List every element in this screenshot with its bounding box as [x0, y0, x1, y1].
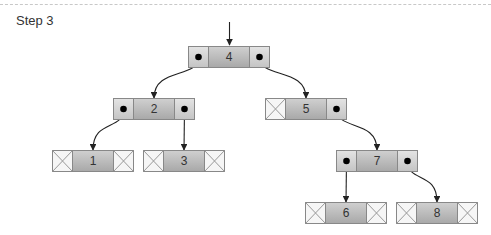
tree-node-7: 7 — [337, 151, 418, 172]
pointer-cell-left — [114, 99, 134, 120]
node-value: 1 — [90, 154, 97, 168]
null-pointer-cell-right — [114, 151, 134, 172]
null-pointer-cell-left — [397, 203, 417, 224]
null-pointer-cell-left — [306, 203, 326, 224]
null-pointer-cell-left — [53, 151, 73, 172]
node-value: 2 — [151, 102, 158, 116]
pointer-dot-icon — [404, 158, 411, 165]
nodes-layer: 42513768 — [53, 47, 478, 224]
tree-node-3: 3 — [144, 151, 225, 172]
pointer-dot-icon — [195, 54, 202, 61]
tree-node-1: 1 — [53, 151, 134, 172]
tree-node-2: 2 — [114, 99, 195, 120]
null-pointer-cell-left — [266, 99, 286, 120]
pointer-cell-left — [189, 47, 209, 68]
pointer-dot-icon — [343, 158, 350, 165]
null-pointer-cell-right — [367, 203, 387, 224]
null-pointer-cell-left — [144, 151, 164, 172]
pointer-dot-icon — [120, 106, 127, 113]
tree-node-4: 4 — [189, 47, 270, 68]
node-value: 4 — [226, 50, 233, 64]
node-value: 8 — [434, 206, 441, 220]
pointer-cell-right — [398, 151, 418, 172]
tree-node-5: 5 — [266, 99, 347, 120]
null-pointer-cell-right — [458, 203, 478, 224]
node-value: 6 — [343, 206, 350, 220]
tree-node-6: 6 — [306, 203, 387, 224]
tree-node-8: 8 — [397, 203, 478, 224]
node-value: 5 — [303, 102, 310, 116]
pointer-cell-right — [327, 99, 347, 120]
pointer-dot-icon — [333, 106, 340, 113]
binary-tree-diagram: 42513768 — [0, 0, 491, 235]
pointer-cell-left — [337, 151, 357, 172]
pointer-dot-icon — [256, 54, 263, 61]
node-value: 3 — [181, 154, 188, 168]
pointer-dot-icon — [181, 106, 188, 113]
pointer-cell-right — [175, 99, 195, 120]
pointer-cell-right — [250, 47, 270, 68]
null-pointer-cell-right — [205, 151, 225, 172]
node-value: 7 — [374, 154, 381, 168]
